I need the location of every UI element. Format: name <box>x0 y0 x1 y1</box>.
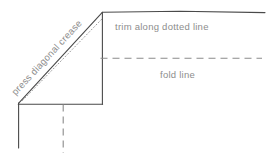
diagram-canvas: press diagonal crease trim along dotted … <box>0 0 269 153</box>
diagonal-crease-label-group: press diagonal crease <box>9 17 84 97</box>
top-edge-line <box>103 11 266 12</box>
diagonal-crease-label: press diagonal crease <box>9 17 84 97</box>
trim-label: trim along dotted line <box>115 21 209 32</box>
diagonal-crease-line <box>19 12 103 103</box>
folding-diagram: press diagonal crease trim along dotted … <box>0 0 269 153</box>
fold-label: fold line <box>160 69 195 80</box>
